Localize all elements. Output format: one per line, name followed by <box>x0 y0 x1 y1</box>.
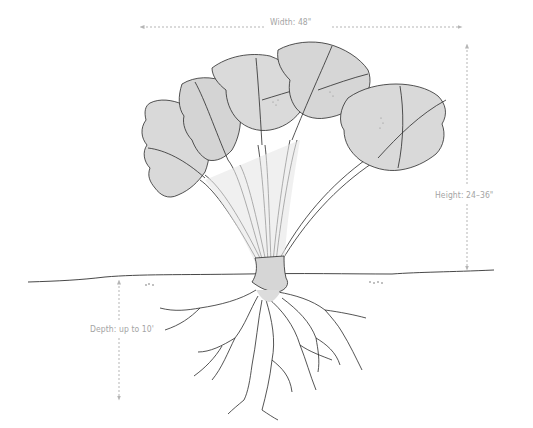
width-label: Width: 48" <box>268 17 313 27</box>
roots <box>160 290 366 420</box>
plant-illustration <box>0 0 533 428</box>
leaf-right <box>341 84 446 171</box>
height-label: Height: 24–36" <box>433 190 495 200</box>
root-shading <box>256 290 280 302</box>
depth-label: Depth: up to 10' <box>88 324 156 334</box>
plant-diagram: Width: 48" Height: 24–36" Depth: up to 1… <box>0 0 533 428</box>
crown <box>252 256 288 292</box>
